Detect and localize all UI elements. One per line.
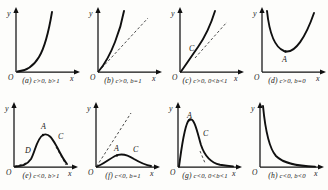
caption-c: (c) c>0, 0<b<1 bbox=[164, 76, 246, 85]
panel-condition-g: c<0, 0<b<1 bbox=[193, 172, 227, 179]
y-axis-label: y bbox=[4, 104, 9, 113]
caption-b: (b) c>0, b=1 bbox=[82, 76, 164, 85]
panel-tag-b: (b) bbox=[104, 76, 113, 85]
curve-d bbox=[267, 11, 314, 52]
curve-c bbox=[181, 11, 215, 72]
asymptote-line-c bbox=[195, 22, 227, 58]
caption-h: (h) c<0, b<0 bbox=[246, 171, 328, 180]
point-label-e-upper-inflection: C bbox=[58, 132, 64, 141]
point-label-f-maximum: A bbox=[113, 144, 119, 153]
panel-f: y x O A C (f) c<0, b=1 bbox=[82, 95, 164, 190]
asymptote-line-b bbox=[99, 18, 149, 72]
maximum-point-marker-e bbox=[42, 134, 44, 136]
curve-b bbox=[99, 11, 125, 72]
axes-d bbox=[259, 7, 326, 75]
panel-condition-a: c>0, b>1 bbox=[33, 77, 59, 84]
maximum-point-marker-f bbox=[116, 154, 118, 156]
axes-e bbox=[11, 102, 78, 170]
panel-condition-d: c>0, b=0 bbox=[279, 77, 305, 84]
point-label-g-inflection: C bbox=[203, 129, 209, 138]
point-label-c-inflection: C bbox=[189, 44, 195, 53]
point-label-e-maximum: A bbox=[40, 122, 46, 131]
panel-tag-e: (e) bbox=[23, 171, 32, 180]
panel-condition-b: c>0, b=1 bbox=[115, 77, 141, 84]
y-axis-label: y bbox=[250, 104, 255, 113]
panel-tag-f: (f) bbox=[105, 171, 113, 180]
point-label-e-lower-inflection: D bbox=[24, 146, 31, 155]
caption-a: (a) c>0, b>1 bbox=[0, 76, 82, 85]
y-axis-label: y bbox=[170, 9, 175, 18]
panel-h: y x O (h) c<0, b<0 bbox=[246, 95, 328, 190]
figure-panel-grid: y x O (a) c>0, b>1 y x O bbox=[0, 0, 328, 190]
curve-h bbox=[263, 106, 315, 167]
axes-c bbox=[177, 7, 244, 75]
panel-tag-d: (d) bbox=[268, 76, 277, 85]
point-label-f-inflection: C bbox=[133, 145, 139, 154]
panel-c: y x O C (c) c>0, 0<b<1 bbox=[164, 0, 246, 95]
panel-tag-h: (h) bbox=[268, 171, 277, 180]
panel-a: y x O (a) c>0, b>1 bbox=[0, 0, 82, 95]
caption-g: (g) c<0, 0<b<1 bbox=[164, 171, 246, 180]
caption-d: (d) c>0, b=0 bbox=[246, 76, 328, 85]
curve-a bbox=[18, 12, 53, 72]
y-axis-label: y bbox=[168, 104, 173, 113]
caption-f: (f) c<0, b=1 bbox=[82, 171, 164, 180]
panel-b: y x O (b) c>0, b=1 bbox=[82, 0, 164, 95]
panel-g: y x O A C (g) c<0, 0<b<1 bbox=[164, 95, 246, 190]
panel-condition-f: c<0, b=1 bbox=[115, 172, 141, 179]
point-label-g-maximum: A bbox=[186, 111, 192, 120]
panel-tag-a: (a) bbox=[22, 76, 31, 85]
y-axis-label: y bbox=[86, 104, 91, 113]
panel-tag-c: (c) bbox=[183, 76, 192, 85]
y-axis-label: y bbox=[252, 9, 257, 18]
panel-condition-e: c<0, b>1 bbox=[33, 172, 59, 179]
axes-f bbox=[93, 102, 160, 170]
panel-condition-c: c>0, 0<b<1 bbox=[193, 77, 227, 84]
y-axis-label: y bbox=[6, 9, 11, 18]
curve-f bbox=[97, 154, 151, 166]
minimum-point-marker-d bbox=[284, 50, 286, 52]
point-label-d-minimum: A bbox=[281, 55, 287, 64]
panel-grid: y x O (a) c>0, b>1 y x O bbox=[0, 0, 328, 190]
tangent-line-f bbox=[97, 113, 132, 167]
panel-d: y x O A (d) c>0, b=0 bbox=[246, 0, 328, 95]
axes-a bbox=[13, 7, 80, 75]
panel-e: y x O A D C (e) c<0, b>1 bbox=[0, 95, 82, 190]
curve-g bbox=[179, 119, 233, 166]
panel-condition-h: c<0, b<0 bbox=[279, 172, 305, 179]
panel-tag-g: (g) bbox=[182, 171, 191, 180]
caption-e: (e) c<0, b>1 bbox=[0, 171, 82, 180]
y-axis-label: y bbox=[88, 9, 93, 18]
